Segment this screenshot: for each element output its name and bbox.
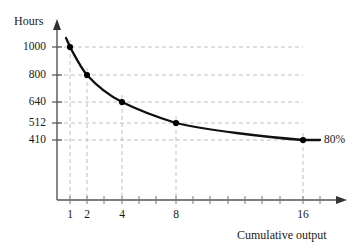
x-tick-label-2: 2 [75, 208, 99, 220]
x-axis-title: Cumulative output [237, 228, 327, 243]
data-point-8 [173, 120, 179, 126]
x-tick-label-4: 4 [110, 208, 134, 220]
y-tick-label-640: 640 [6, 95, 46, 107]
y-tick-label-800: 800 [6, 68, 46, 80]
data-point-4 [119, 99, 125, 105]
y-axis-arrow-icon [53, 19, 61, 30]
data-point-2 [84, 72, 90, 78]
vertical-gridlines [70, 40, 303, 199]
y-axis [53, 19, 61, 200]
x-tick-label-16: 16 [291, 208, 315, 220]
x-axis-arrow-icon [336, 196, 347, 204]
y-tick-label-410: 410 [6, 133, 46, 145]
data-point-1 [67, 44, 73, 50]
data-point-markers [67, 44, 306, 143]
learning-curve-figure: Hours 1000 800 640 512 410 1 2 4 8 16 Cu… [0, 0, 364, 250]
y-axis-title: Hours [14, 14, 43, 29]
horizontal-gridlines [57, 47, 303, 140]
learning-curve-line [66, 38, 320, 140]
y-tick-label-512: 512 [6, 116, 46, 128]
data-point-16 [300, 137, 306, 143]
x-tick-label-8: 8 [164, 208, 188, 220]
y-tick-label-1000: 1000 [6, 40, 46, 52]
curve-rate-annotation: 80% [324, 133, 345, 145]
